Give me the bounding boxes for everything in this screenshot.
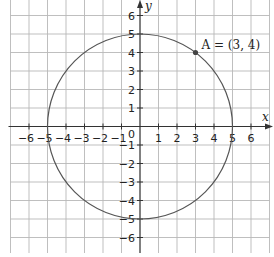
x-axis-arrow-icon [265, 124, 273, 130]
x-tick-label: 6 [248, 132, 255, 145]
circle-graph: −6−5−4−3−2−1123456654321−1−2−3−4−5−6 x y… [0, 0, 274, 257]
x-tick-label: −2 [92, 132, 108, 145]
y-tick-label: 6 [128, 10, 135, 23]
x-tick-label: −5 [36, 132, 52, 145]
y-tick-label: 2 [128, 84, 135, 97]
y-tick-label: −6 [119, 232, 135, 245]
x-tick-label: 3 [192, 132, 199, 145]
y-tick-label: −2 [119, 158, 135, 171]
point-a-marker [193, 50, 198, 55]
x-tick-label: 1 [155, 132, 162, 145]
y-tick-label: −3 [119, 176, 135, 189]
y-tick-label: 1 [128, 102, 135, 115]
origin-label: 0 [128, 128, 135, 141]
point-a-label: A = (3, 4) [201, 38, 261, 52]
x-tick-label: −6 [18, 132, 34, 145]
y-axis-label: y [144, 0, 152, 13]
x-tick-label: 2 [174, 132, 181, 145]
x-tick-label: −4 [55, 132, 71, 145]
y-tick-label: −5 [119, 213, 135, 226]
y-tick-label: −1 [119, 139, 135, 152]
y-tick-label: 3 [128, 65, 135, 78]
y-axis-arrow-icon [137, 0, 143, 8]
x-tick-label: 4 [211, 132, 218, 145]
x-axis-label: x [262, 110, 269, 124]
y-tick-label: 4 [128, 47, 135, 60]
y-tick-label: −4 [119, 195, 135, 208]
x-tick-label: −3 [73, 132, 89, 145]
